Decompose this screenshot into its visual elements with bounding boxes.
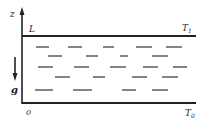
- fluid-dashes: [35, 47, 187, 90]
- height-label: L: [28, 24, 35, 34]
- top-temperature-label: T1: [182, 23, 192, 34]
- gravity-arrow-icon: [13, 73, 18, 81]
- convection-layer-diagram: z L T1 0 T0 g: [0, 0, 212, 127]
- z-axis-label: z: [9, 9, 15, 19]
- bottom-temperature-label: T0: [185, 108, 195, 119]
- z-axis-arrow-icon: [20, 7, 25, 15]
- origin-label: 0: [26, 108, 31, 117]
- gravity-label: g: [11, 84, 18, 95]
